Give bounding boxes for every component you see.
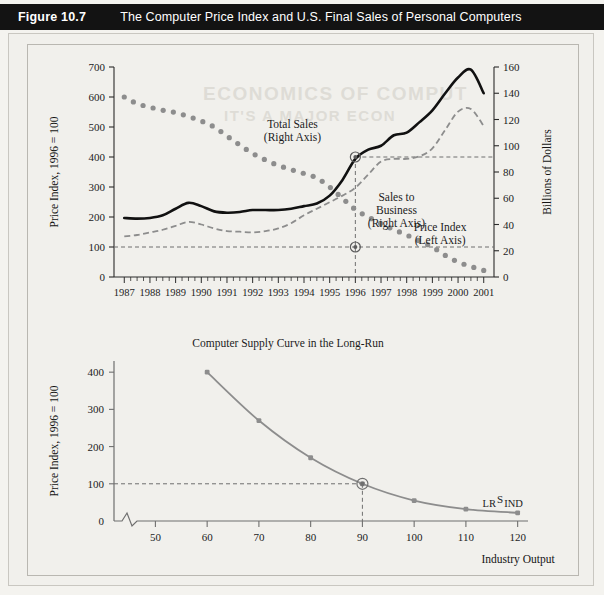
svg-text:90: 90 (357, 531, 369, 543)
svg-text:140: 140 (503, 87, 520, 99)
bottom-chart-title: Computer Supply Curve in the Long-Run (192, 337, 384, 350)
top-chart-svg: 0100200300400500600700020406080100120140… (28, 53, 580, 329)
svg-text:Total Sales: Total Sales (267, 118, 318, 130)
svg-text:S: S (497, 493, 503, 505)
svg-text:1989: 1989 (165, 287, 186, 298)
svg-text:400: 400 (89, 151, 106, 163)
svg-text:1994: 1994 (294, 287, 316, 298)
svg-text:200: 200 (88, 441, 105, 453)
svg-text:1991: 1991 (216, 287, 237, 298)
svg-text:100: 100 (503, 140, 520, 152)
svg-text:2000: 2000 (448, 287, 469, 298)
svg-text:1997: 1997 (371, 287, 392, 298)
svg-text:20: 20 (503, 245, 515, 257)
svg-text:70: 70 (253, 531, 265, 543)
svg-text:160: 160 (503, 61, 520, 73)
svg-text:120: 120 (503, 114, 520, 126)
svg-text:Price Index: Price Index (414, 221, 467, 233)
svg-text:1995: 1995 (319, 287, 340, 298)
bottom-chart-svg: 01002003004005060708090100110120Price In… (28, 335, 580, 575)
svg-text:300: 300 (88, 403, 105, 415)
svg-text:300: 300 (89, 181, 106, 193)
figure-page: Figure 10.7 The Computer Price Index and… (0, 0, 604, 595)
top-y-axis-label: Price Index, 1996 = 100 (48, 116, 61, 227)
annotation-price-index: Price Index(Left Axis) (414, 221, 467, 247)
bottom-chart: 01002003004005060708090100110120Price In… (28, 335, 580, 575)
figure-outer-frame: ECONOMICS OF COMPUT IT'S A MAJOR ECON 01… (8, 33, 594, 586)
svg-text:60: 60 (503, 192, 515, 204)
annotation-total-sales: Total Sales(Right Axis) (264, 118, 321, 144)
figure-title-bar: Figure 10.7 The Computer Price Index and… (0, 4, 604, 30)
supply-curve-label: LRSIND (482, 493, 523, 509)
svg-text:120: 120 (509, 531, 526, 543)
figure-number: Figure 10.7 (18, 10, 86, 24)
svg-text:40: 40 (503, 219, 515, 231)
svg-text:Business: Business (376, 204, 417, 216)
bottom-y-axis-label: Price Index, 1996 = 100 (48, 385, 61, 496)
svg-text:100: 100 (89, 241, 106, 253)
svg-text:100: 100 (88, 478, 105, 490)
svg-text:1992: 1992 (242, 287, 263, 298)
svg-text:80: 80 (305, 531, 317, 543)
svg-text:1996: 1996 (345, 287, 366, 298)
svg-text:1990: 1990 (191, 287, 212, 298)
top-chart: 0100200300400500600700020406080100120140… (28, 53, 580, 329)
svg-text:IND: IND (504, 498, 523, 509)
svg-text:1999: 1999 (422, 287, 443, 298)
figure-title: The Computer Price Index and U.S. Final … (120, 10, 521, 24)
svg-text:0: 0 (503, 271, 509, 283)
figure-inner-frame: ECONOMICS OF COMPUT IT'S A MAJOR ECON 01… (27, 44, 579, 576)
svg-text:1998: 1998 (396, 287, 417, 298)
svg-text:80: 80 (503, 166, 515, 178)
series-total-sales (124, 69, 483, 219)
svg-text:110: 110 (458, 531, 475, 543)
svg-text:Sales to: Sales to (378, 191, 414, 203)
svg-text:100: 100 (406, 531, 423, 543)
svg-text:60: 60 (202, 531, 214, 543)
svg-text:2001: 2001 (473, 287, 494, 298)
svg-text:(Left Axis): (Left Axis) (415, 234, 466, 247)
svg-text:0: 0 (99, 515, 105, 527)
bottom-x-axis-label: Industry Output (481, 553, 555, 566)
svg-text:400: 400 (88, 366, 105, 378)
svg-text:1987: 1987 (114, 287, 135, 298)
svg-text:700: 700 (89, 61, 106, 73)
svg-text:1993: 1993 (268, 287, 289, 298)
top-y2-axis-label: Billions of Dollars (541, 129, 553, 215)
svg-text:LR: LR (482, 498, 495, 509)
svg-text:500: 500 (89, 121, 106, 133)
svg-text:600: 600 (89, 91, 106, 103)
svg-text:0: 0 (100, 271, 106, 283)
svg-text:50: 50 (150, 531, 162, 543)
svg-text:1988: 1988 (139, 287, 160, 298)
svg-text:(Right Axis): (Right Axis) (264, 131, 321, 144)
svg-text:200: 200 (89, 211, 106, 223)
